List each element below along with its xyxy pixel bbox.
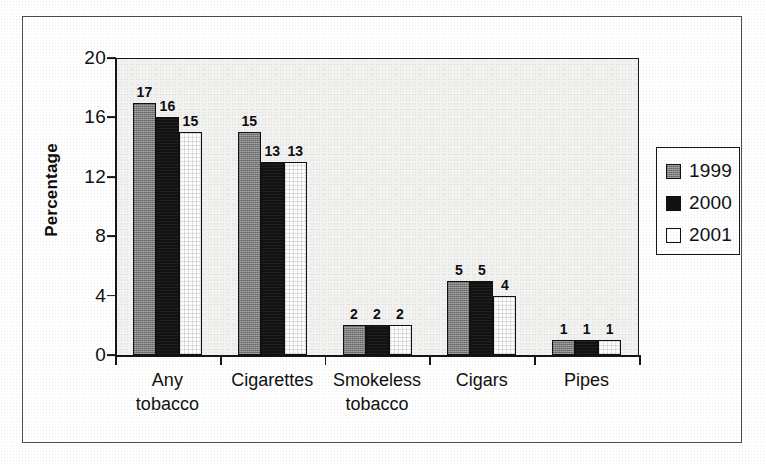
gray-swatch-icon (666, 164, 681, 179)
x-axis-line (115, 355, 641, 357)
y-tick-label-20: 20 (84, 47, 106, 69)
bar-value-label-2000-4: 5 (478, 262, 486, 278)
bar-2001-2 (284, 162, 307, 355)
legend-label-2000: 2000 (689, 192, 732, 214)
y-tick-label-12: 12 (84, 166, 106, 188)
bar-value-label-1999-4: 5 (455, 262, 463, 278)
legend-item-2001: 2001 (666, 219, 739, 251)
x-category-label-line1: Cigars (456, 368, 508, 392)
chart-page: Percentage 048121620 1716151513132225541… (0, 0, 766, 465)
bar-2000-5 (575, 340, 598, 355)
x-tick-mark-4 (534, 355, 536, 365)
bar-2000-1 (156, 117, 179, 355)
bar-2001-4 (493, 296, 516, 355)
legend-label-2001: 2001 (689, 224, 732, 246)
bar-2000-3 (366, 325, 389, 355)
black-swatch-icon (666, 196, 681, 211)
white-swatch-icon (666, 228, 681, 243)
x-category-label-line2: tobacco (136, 392, 199, 416)
bar-value-label-2000-5: 1 (583, 321, 591, 337)
x-category-label-line1: Any (136, 368, 199, 392)
bar-1999-1 (133, 103, 156, 355)
bar-value-label-1999-2: 15 (241, 113, 257, 129)
y-axis-title: Percentage (42, 110, 62, 270)
legend: 199920002001 (656, 147, 740, 255)
bar-value-label-2001-3: 2 (396, 306, 404, 322)
bar-value-label-1999-1: 17 (137, 84, 153, 100)
x-category-label-3: Smokelesstobacco (333, 368, 421, 417)
y-tick-label-16: 16 (84, 106, 106, 128)
bar-1999-4 (447, 281, 470, 355)
bar-value-label-2000-3: 2 (373, 306, 381, 322)
y-tick-label-0: 0 (95, 344, 106, 366)
bar-2000-4 (470, 281, 493, 355)
bar-2001-1 (179, 132, 202, 355)
bar-2000-2 (261, 162, 284, 355)
x-category-label-4: Cigars (456, 368, 508, 392)
y-tick-label-8: 8 (95, 225, 106, 247)
bar-value-label-2001-2: 13 (287, 143, 303, 159)
bar-value-label-1999-3: 2 (350, 306, 358, 322)
bar-value-label-2001-5: 1 (606, 321, 614, 337)
bar-value-label-2000-1: 16 (160, 98, 176, 114)
bar-1999-5 (552, 340, 575, 355)
x-category-label-line1: Cigarettes (231, 368, 313, 392)
y-tick-label-4: 4 (95, 285, 106, 307)
x-category-label-2: Cigarettes (231, 368, 313, 392)
bar-value-label-2001-4: 4 (501, 277, 509, 293)
x-category-label-line1: Pipes (564, 368, 609, 392)
x-category-label-1: Anytobacco (136, 368, 199, 417)
bar-value-label-1999-5: 1 (560, 321, 568, 337)
legend-label-1999: 1999 (689, 160, 732, 182)
x-category-label-line2: tobacco (333, 392, 421, 416)
x-category-label-line1: Smokeless (333, 368, 421, 392)
bar-value-label-2001-1: 15 (183, 113, 199, 129)
bar-1999-2 (238, 132, 261, 355)
x-tick-mark-5 (639, 355, 641, 365)
bar-2001-3 (389, 325, 412, 355)
legend-item-2000: 2000 (666, 187, 739, 219)
x-tick-mark-0 (115, 355, 117, 365)
x-tick-mark-2 (325, 355, 327, 365)
x-tick-mark-1 (220, 355, 222, 365)
y-axis-tick-labels: 048121620 (62, 0, 106, 465)
x-category-label-5: Pipes (564, 368, 609, 392)
bar-value-label-2000-2: 13 (264, 143, 280, 159)
bar-1999-3 (343, 325, 366, 355)
legend-item-1999: 1999 (666, 155, 739, 187)
bar-2001-5 (598, 340, 621, 355)
x-tick-mark-3 (429, 355, 431, 365)
